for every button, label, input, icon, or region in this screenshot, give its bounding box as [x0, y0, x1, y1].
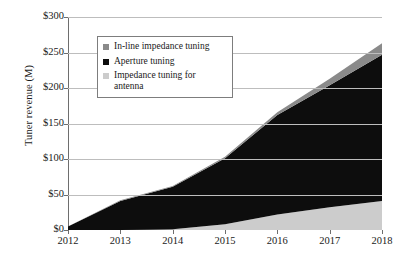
- x-tick-mark: [225, 230, 226, 234]
- y-tick-label: $150: [20, 118, 64, 129]
- legend-swatch-icon: [103, 44, 109, 50]
- y-tick-mark: [64, 88, 68, 89]
- x-tick-mark: [382, 230, 383, 234]
- y-tick-label: $250: [20, 47, 64, 58]
- gridline: [68, 124, 382, 125]
- y-tick-mark: [64, 124, 68, 125]
- legend-item-label: Aperture tuning: [114, 56, 174, 67]
- gridline: [68, 17, 382, 18]
- x-tick-mark: [330, 230, 331, 234]
- y-tick-label: $50: [20, 189, 64, 200]
- x-tick-label: 2013: [95, 236, 145, 247]
- y-tick-mark: [64, 195, 68, 196]
- legend-item-label: In-line impedance tuning: [114, 41, 210, 52]
- x-tick-label: 2018: [357, 236, 407, 247]
- chart-figure: Tuner revenue (M) $0$50$100$150$200$250$…: [0, 0, 407, 261]
- y-tick-mark: [64, 159, 68, 160]
- x-tick-label: 2014: [148, 236, 198, 247]
- legend-item[interactable]: In-line impedance tuning: [103, 41, 227, 52]
- legend-item[interactable]: Aperture tuning: [103, 56, 227, 67]
- chart-legend: In-line impedance tuningAperture tuningI…: [97, 36, 233, 98]
- x-tick-label: 2015: [200, 236, 250, 247]
- x-tick-label: 2012: [43, 236, 93, 247]
- y-tick-mark: [64, 53, 68, 54]
- legend-swatch-icon: [103, 73, 109, 79]
- gridline: [68, 195, 382, 196]
- y-axis-tick-labels: $0$50$100$150$200$250$300: [12, 0, 64, 261]
- x-tick-mark: [120, 230, 121, 234]
- y-tick-label: $100: [20, 153, 64, 164]
- x-tick-mark: [68, 230, 69, 234]
- gridline: [68, 159, 382, 160]
- x-tick-mark: [173, 230, 174, 234]
- y-tick-mark: [64, 17, 68, 18]
- legend-item-label: Impedance tuning for antenna: [114, 70, 227, 91]
- x-tick-label: 2016: [252, 236, 302, 247]
- y-tick-label: $300: [20, 11, 64, 22]
- x-axis-tick-labels: 2012201320142015201620172018: [0, 236, 407, 256]
- x-tick-mark: [277, 230, 278, 234]
- legend-swatch-icon: [103, 59, 109, 65]
- y-tick-label: $0: [20, 224, 64, 235]
- y-tick-label: $200: [20, 82, 64, 93]
- legend-item[interactable]: Impedance tuning for antenna: [103, 70, 227, 91]
- x-tick-label: 2017: [305, 236, 355, 247]
